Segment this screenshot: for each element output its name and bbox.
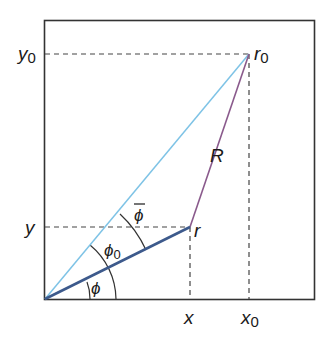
x0-label: x0 xyxy=(240,307,259,330)
x-label: x xyxy=(183,307,195,328)
y-label: y xyxy=(23,217,36,238)
phi0-label: ϕ0 xyxy=(104,241,121,262)
phi-arc xyxy=(87,282,90,299)
r0-vector xyxy=(45,54,249,299)
polar-vector-diagram: y0 y x x0 r0 r R ϕ ϕ0 ϕ xyxy=(0,0,331,339)
r0-label: r0 xyxy=(254,43,269,66)
r-vector xyxy=(45,227,190,299)
y0-label: y0 xyxy=(16,43,36,66)
plot-frame xyxy=(45,21,315,300)
R-vector xyxy=(190,54,249,227)
R-label: R xyxy=(210,145,224,166)
phi-bar-label: ϕ xyxy=(134,206,143,225)
r-label: r xyxy=(194,220,201,241)
phi-label: ϕ xyxy=(91,279,100,298)
